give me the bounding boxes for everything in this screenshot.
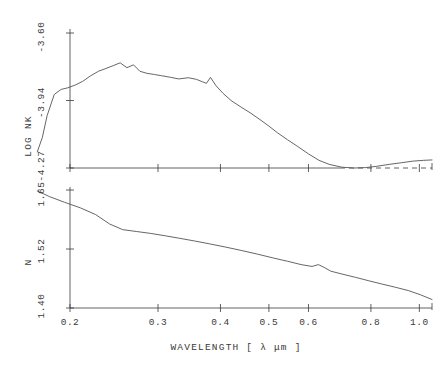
lower-y-axis-title: N (23, 259, 34, 266)
upper-y-labels: -3.60-3.94-4.27LOG NK (23, 21, 47, 181)
lower-ytick-label-1: 1.52 (36, 239, 47, 264)
xtick-label-5: 0.8 (362, 317, 381, 328)
x-axis-labels: 0.20.30.40.50.60.81.0WAVELENGTH [ λ μm ] (61, 317, 429, 353)
lower-y-labels: 1.651.521.40N (23, 182, 47, 319)
x-axis-title: WAVELENGTH [ λ μm ] (170, 342, 301, 353)
upper-ytick-label-0: -3.60 (36, 21, 47, 52)
lower-panel (37, 187, 432, 312)
xtick-label-6: 1.0 (410, 317, 429, 328)
xtick-label-1: 0.3 (149, 317, 168, 328)
xtick-label-3: 0.5 (260, 317, 279, 328)
upper-ytick-label-2: -4.27 (36, 150, 47, 181)
upper-y-axis-title: LOG NK (23, 115, 34, 156)
upper-curve-log-nk (37, 63, 432, 168)
lower-curve-n (37, 191, 432, 300)
lower-ytick-label-2: 1.40 (36, 294, 47, 319)
xtick-label-0: 0.2 (61, 317, 80, 328)
upper-ytick-label-1: -3.94 (36, 87, 47, 118)
upper-panel (37, 29, 432, 172)
xtick-label-2: 0.4 (211, 317, 230, 328)
lower-ytick-label-0: 1.65 (36, 182, 47, 207)
xtick-label-4: 0.6 (299, 317, 318, 328)
chart-canvas: -3.60-3.94-4.27LOG NK1.651.521.40N0.20.3… (0, 0, 444, 368)
figure-root: -3.60-3.94-4.27LOG NK1.651.521.40N0.20.3… (0, 0, 444, 368)
